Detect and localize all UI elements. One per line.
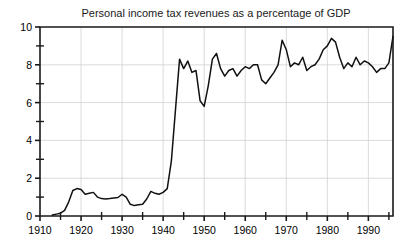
y-tick-label: 8 [26, 59, 32, 71]
x-tick-label: 1930 [110, 224, 134, 236]
chart-title: Personal income tax revenues as a percen… [81, 7, 350, 19]
y-tick-label: 10 [20, 21, 32, 33]
x-tick-label: 1990 [357, 224, 381, 236]
y-tick-label: 0 [26, 210, 32, 222]
x-tick-label: 1910 [28, 224, 52, 236]
y-tick-label: 6 [26, 97, 32, 109]
x-axis-tick-labels: 191019201930194019501960197019801990 [28, 224, 380, 236]
x-tick-label: 1960 [234, 224, 258, 236]
x-tick-label: 1940 [151, 224, 175, 236]
x-tick-label: 1980 [316, 224, 340, 236]
chart-background [0, 0, 407, 246]
x-tick-label: 1970 [275, 224, 299, 236]
x-tick-label: 1920 [69, 224, 93, 236]
y-tick-label: 2 [26, 172, 32, 184]
line-chart: Personal income tax revenues as a percen… [0, 0, 407, 246]
chart-figure: Personal income tax revenues as a percen… [0, 0, 407, 246]
y-tick-label: 4 [26, 134, 32, 146]
x-tick-label: 1950 [193, 224, 217, 236]
